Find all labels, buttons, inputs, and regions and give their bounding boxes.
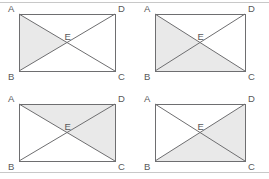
vertex-label-c: C bbox=[248, 71, 255, 82]
vertex-label-e: E bbox=[198, 121, 204, 132]
figure-canvas: ADBCEADBCEADBCEADBCE bbox=[0, 0, 269, 179]
vertex-label-b: B bbox=[8, 161, 14, 172]
vertex-label-b: B bbox=[144, 161, 150, 172]
vertex-label-e: E bbox=[198, 31, 204, 42]
vertex-label-d: D bbox=[248, 93, 255, 104]
panel-top-left: ADBCE bbox=[8, 3, 125, 82]
vertex-label-b: B bbox=[144, 71, 150, 82]
vertex-label-c: C bbox=[118, 161, 125, 172]
geometry-figure: ADBCEADBCEADBCEADBCE bbox=[0, 0, 269, 179]
vertex-label-a: A bbox=[8, 93, 15, 104]
vertex-label-a: A bbox=[144, 3, 151, 14]
vertex-label-d: D bbox=[248, 3, 255, 14]
panel-bottom-right: ADBCE bbox=[144, 93, 255, 172]
vertex-label-c: C bbox=[248, 161, 255, 172]
shaded-triangle-abe bbox=[19, 14, 67, 71]
vertex-label-d: D bbox=[118, 3, 125, 14]
vertex-label-d: D bbox=[118, 93, 125, 104]
vertex-label-b: B bbox=[8, 71, 14, 82]
panel-bottom-left: ADBCE bbox=[8, 93, 125, 172]
panel-top-right: ADBCE bbox=[144, 3, 255, 82]
vertex-label-a: A bbox=[8, 3, 15, 14]
vertex-label-a: A bbox=[144, 93, 151, 104]
vertex-label-c: C bbox=[118, 71, 125, 82]
vertex-label-e: E bbox=[65, 31, 71, 42]
vertex-label-e: E bbox=[65, 121, 71, 132]
